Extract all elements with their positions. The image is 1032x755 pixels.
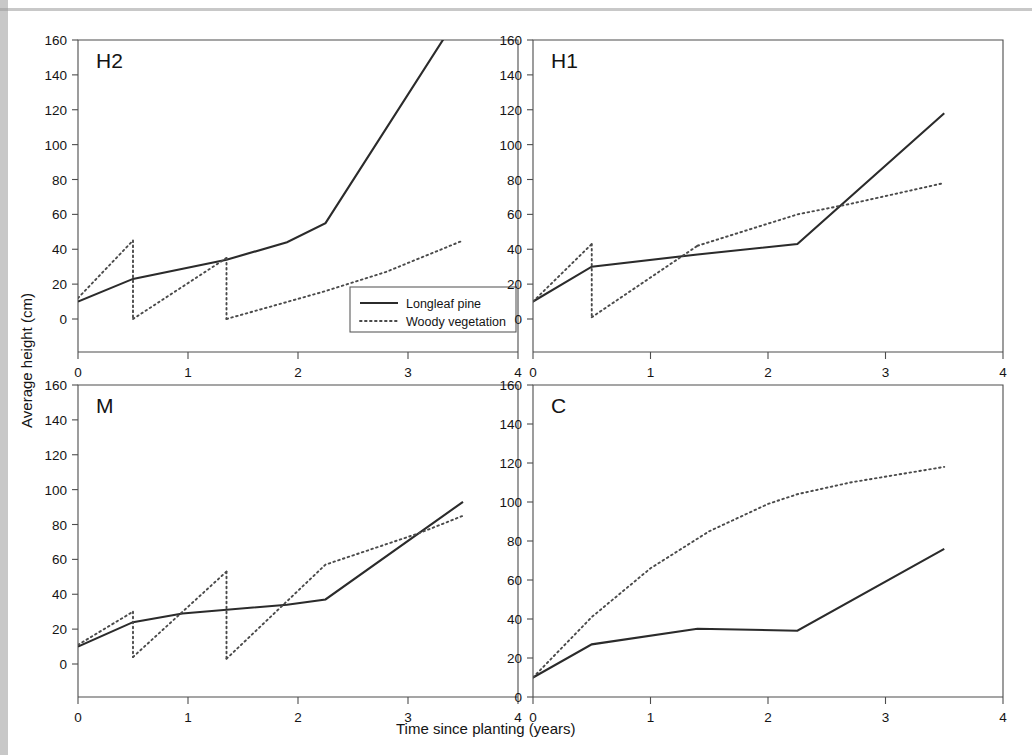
x-tick-label: 0 xyxy=(74,365,82,380)
scan-edge-artifact xyxy=(0,8,1032,11)
y-tick-label: 120 xyxy=(44,103,67,118)
y-tick-label: 100 xyxy=(499,495,522,510)
y-tick-label: 0 xyxy=(59,312,67,327)
series-woody-vegetation xyxy=(698,183,945,246)
panel-series-layer xyxy=(533,113,944,317)
y-tick-label: 100 xyxy=(44,138,67,153)
y-tick-label: 160 xyxy=(44,33,67,48)
x-tick-label: 1 xyxy=(184,710,192,725)
series-longleaf-pine xyxy=(533,549,944,678)
y-tick-label: 160 xyxy=(44,378,67,393)
series-woody-vegetation xyxy=(227,516,464,659)
panel-h2: 02040608010012014016001234H2Longleaf pin… xyxy=(44,9,522,380)
y-tick-label: 160 xyxy=(499,378,522,393)
series-woody-vegetation xyxy=(133,258,227,319)
y-tick-label: 140 xyxy=(44,68,67,83)
panel-series-layer xyxy=(78,9,463,319)
y-tick-label: 80 xyxy=(52,518,67,533)
y-tick-label: 140 xyxy=(499,417,522,432)
panel-tag-h2: H2 xyxy=(96,49,123,72)
series-longleaf-pine xyxy=(78,9,463,302)
figure-root: Average height (cm) Time since planting … xyxy=(0,0,1032,755)
x-tick-label: 3 xyxy=(404,365,412,380)
y-tick-label: 80 xyxy=(507,534,522,549)
y-tick-label: 20 xyxy=(52,622,67,637)
panel-m: 02040608010012014016001234M xyxy=(44,378,522,725)
y-tick-label: 20 xyxy=(507,651,522,666)
y-tick-label: 20 xyxy=(507,277,522,292)
y-tick-label: 160 xyxy=(499,33,522,48)
x-tick-label: 3 xyxy=(882,710,890,725)
x-tick-label: 0 xyxy=(529,710,537,725)
y-tick-label: 100 xyxy=(499,138,522,153)
panel-frame xyxy=(533,385,1003,697)
panel-h1: 02040608010012014016001234H1 xyxy=(499,33,1007,380)
y-tick-label: 140 xyxy=(44,413,67,428)
y-tick-label: 60 xyxy=(52,207,67,222)
x-tick-label: 4 xyxy=(999,365,1007,380)
y-tick-label: 60 xyxy=(52,552,67,567)
x-tick-label: 3 xyxy=(404,710,412,725)
series-woody-vegetation xyxy=(78,612,133,645)
x-tick-label: 0 xyxy=(74,710,82,725)
y-tick-label: 120 xyxy=(499,103,522,118)
y-tick-label: 140 xyxy=(499,68,522,83)
multi-panel-plot: 02040608010012014016001234H2Longleaf pin… xyxy=(0,0,1032,755)
panel-c: 02040608010012014016001234C xyxy=(499,378,1007,725)
y-tick-label: 120 xyxy=(44,448,67,463)
x-tick-label: 0 xyxy=(529,365,537,380)
x-tick-label: 1 xyxy=(647,365,655,380)
panel-series-layer xyxy=(533,467,944,678)
y-tick-label: 60 xyxy=(507,207,522,222)
x-tick-label: 1 xyxy=(184,365,192,380)
series-longleaf-pine xyxy=(533,113,944,301)
x-tick-label: 2 xyxy=(764,365,772,380)
panel-frame xyxy=(533,40,1003,352)
y-tick-label: 40 xyxy=(52,587,67,602)
y-tick-label: 120 xyxy=(499,456,522,471)
x-tick-label: 3 xyxy=(882,365,890,380)
x-tick-label: 2 xyxy=(294,710,302,725)
series-longleaf-pine xyxy=(78,502,463,647)
panel-tag-c: C xyxy=(551,394,566,417)
scan-edge-artifact xyxy=(0,0,8,755)
panel-tag-h1: H1 xyxy=(551,49,578,72)
y-tick-label: 40 xyxy=(507,242,522,257)
legend-label: Longleaf pine xyxy=(406,297,481,311)
legend: Longleaf pineWoody vegetation xyxy=(350,287,516,332)
x-tick-label: 2 xyxy=(294,365,302,380)
x-tick-label: 4 xyxy=(999,710,1007,725)
panel-series-layer xyxy=(78,502,463,659)
x-tick-label: 4 xyxy=(514,710,522,725)
y-tick-label: 0 xyxy=(514,690,522,705)
y-tick-label: 40 xyxy=(52,242,67,257)
panel-frame xyxy=(78,385,518,697)
x-tick-label: 1 xyxy=(647,710,655,725)
y-tick-label: 80 xyxy=(507,173,522,188)
series-woody-vegetation xyxy=(533,467,944,678)
x-tick-label: 2 xyxy=(764,710,772,725)
y-tick-label: 40 xyxy=(507,612,522,627)
y-tick-label: 20 xyxy=(52,277,67,292)
panel-tag-m: M xyxy=(96,394,114,417)
y-tick-label: 100 xyxy=(44,483,67,498)
y-tick-label: 0 xyxy=(59,657,67,672)
y-tick-label: 0 xyxy=(514,312,522,327)
legend-label: Woody vegetation xyxy=(406,315,506,329)
y-tick-label: 60 xyxy=(507,573,522,588)
y-tick-label: 80 xyxy=(52,173,67,188)
